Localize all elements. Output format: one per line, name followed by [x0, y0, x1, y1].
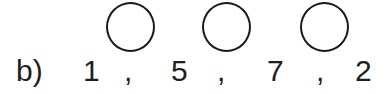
number-4: 2	[355, 56, 372, 86]
exercise-label: b)	[16, 56, 43, 86]
separator-2: ,	[217, 56, 225, 86]
number-2: 5	[171, 56, 188, 86]
separator-1: ,	[124, 56, 132, 86]
separator-3: ,	[316, 56, 324, 86]
number-3: 7	[267, 56, 284, 86]
exercise-b: b) 1 , 5 , 7 , 2	[0, 0, 390, 94]
answer-circle-1[interactable]	[106, 2, 155, 52]
answer-circle-3[interactable]	[300, 2, 349, 52]
answer-circle-2[interactable]	[202, 2, 251, 52]
number-1: 1	[83, 56, 100, 86]
